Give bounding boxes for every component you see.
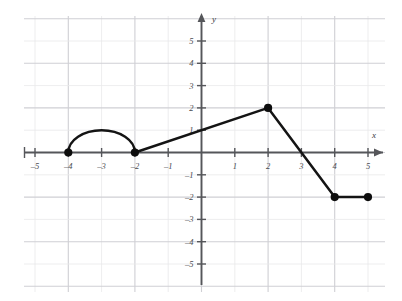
grid-lines [24,16,385,292]
x-tick-label: 2 [266,161,271,171]
y-tick-label: –1 [184,170,194,180]
x-tick-label: –5 [30,161,40,171]
x-axis-label: x [371,130,376,140]
x-tick-label: 5 [366,161,370,171]
x-tick-label: 1 [233,161,237,171]
x-tick-label: 3 [298,161,303,171]
x-tick-label: –2 [130,161,140,171]
endpoint-dot [331,193,339,201]
y-tick-label: –2 [184,192,194,202]
y-tick-label: 5 [189,36,193,46]
endpoint-dot [131,148,139,156]
graph-figure: –5–4–3–2–112345 54321–1–2–3–4–5 x y [0,0,402,301]
y-tick-label: –4 [184,237,194,247]
x-tick-label: –1 [163,161,173,171]
endpoint-dot [64,148,72,156]
y-tick-label: –5 [184,259,194,269]
y-tick-label: –3 [184,214,194,224]
x-axis-arrowhead [374,149,383,157]
y-tick-label: 3 [188,81,193,91]
coordinate-plane-svg: –5–4–3–2–112345 54321–1–2–3–4–5 x y [0,0,402,301]
x-tick-label: –3 [96,161,106,171]
x-axis-tick-labels: –5–4–3–2–112345 [30,161,370,171]
endpoint-dot [364,193,372,201]
y-axis-arrowhead [198,13,206,22]
endpoint-dot [264,104,272,112]
x-tick-label: 4 [333,161,338,171]
axes-group [24,13,383,285]
x-tick-label: –4 [63,161,73,171]
y-axis-label: y [211,14,216,24]
